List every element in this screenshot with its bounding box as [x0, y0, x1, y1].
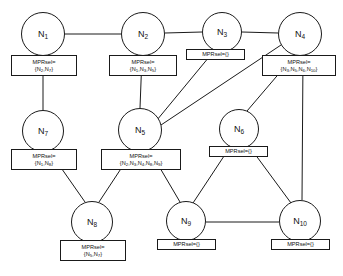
- mprsel-box-n10: MPRsel={}: [271, 239, 330, 250]
- node-label: N5: [135, 126, 145, 135]
- mprsel-box-n6: MPRsel={}: [209, 146, 268, 157]
- node-n6[interactable]: N6: [219, 109, 259, 149]
- edge-n3-n4: [242, 32, 278, 33]
- mprsel-members: {N3,N5,N6,N10}: [281, 66, 318, 73]
- mprsel-text: MPRsel={}: [173, 241, 200, 248]
- edge-n2-n3: [165, 32, 202, 33]
- mprsel-prefix: MPRsel=: [33, 59, 56, 66]
- mprsel-members: {N1,N8}: [35, 160, 53, 167]
- mprsel-box-n7: MPRsel={N1,N8}: [11, 149, 77, 170]
- node-n9[interactable]: N9: [166, 201, 206, 241]
- mprsel-prefix: MPRsel=: [130, 153, 153, 160]
- mprsel-box-n9: MPRsel={}: [157, 239, 216, 250]
- mprsel-prefix: MPRsel=: [132, 59, 155, 66]
- network-topology-diagram: N1MPRsel={N2,N7}N2MPRsel={N1,N3,N5}N3MPR…: [0, 0, 343, 276]
- edge-n4-n10: [302, 56, 303, 200]
- node-n2[interactable]: N2: [121, 12, 165, 56]
- mprsel-members: {N2,N7}: [35, 66, 53, 73]
- mprsel-box-n2: MPRsel={N1,N3,N5}: [109, 55, 177, 76]
- mprsel-box-n1: MPRsel={N2,N7}: [11, 55, 77, 76]
- mprsel-text: MPRsel={}: [287, 241, 314, 248]
- mprsel-box-n3: MPRsel={}: [186, 49, 245, 60]
- node-label: N4: [295, 30, 305, 39]
- node-label: N8: [87, 218, 97, 227]
- node-label: N10: [293, 217, 307, 226]
- node-label: N7: [38, 127, 48, 136]
- mprsel-members: {N2,N3,N4,N8,N9}: [120, 160, 163, 167]
- mprsel-text: MPRsel={}: [225, 148, 252, 155]
- mprsel-box-n5: MPRsel={N2,N3,N4,N8,N9}: [101, 149, 181, 170]
- node-n10[interactable]: N10: [279, 200, 321, 242]
- mprsel-box-n8: MPRsel={N5,N7}: [60, 240, 126, 261]
- node-label: N9: [181, 217, 191, 226]
- mprsel-prefix: MPRsel=: [288, 59, 311, 66]
- node-n3[interactable]: N3: [202, 12, 242, 52]
- node-n8[interactable]: N8: [71, 201, 113, 243]
- mprsel-prefix: MPRsel=: [82, 244, 105, 251]
- node-label: N2: [138, 30, 148, 39]
- node-n4[interactable]: N4: [278, 12, 322, 56]
- node-label: N3: [217, 28, 227, 37]
- node-n5[interactable]: N5: [118, 108, 162, 152]
- mprsel-box-n4: MPRsel={N3,N5,N6,N10}: [262, 55, 336, 76]
- mprsel-members: {N5,N7}: [84, 251, 102, 258]
- node-n1[interactable]: N1: [21, 12, 65, 56]
- node-label: N1: [38, 30, 48, 39]
- mprsel-members: {N1,N3,N5}: [130, 66, 156, 73]
- mprsel-prefix: MPRsel=: [33, 153, 56, 160]
- node-label: N6: [234, 125, 244, 134]
- node-n7[interactable]: N7: [22, 110, 64, 152]
- mprsel-text: MPRsel={}: [202, 51, 229, 58]
